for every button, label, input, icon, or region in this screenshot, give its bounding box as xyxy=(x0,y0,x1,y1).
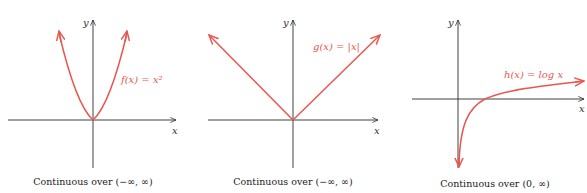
continuity-caption: Continuous over (0, ∞) xyxy=(440,178,550,189)
x-axis-label: x xyxy=(374,125,380,136)
panel-absolute-value-function: x y g(x) = |x| Continuous over (−∞, ∞) xyxy=(208,17,380,187)
abs-left-branch xyxy=(209,35,293,120)
log-curve xyxy=(459,81,583,165)
y-axis-label: y xyxy=(447,17,454,28)
function-label: h(x) = log x xyxy=(504,69,563,80)
curve-arrow-right xyxy=(575,81,584,82)
y-axis-label: y xyxy=(282,17,289,28)
x-axis-label: x xyxy=(172,125,178,136)
curve-arrow-right xyxy=(125,31,127,42)
panel-log-function: x y h(x) = log x Continuous over (0, ∞) xyxy=(412,17,585,189)
continuity-caption: Continuous over (−∞, ∞) xyxy=(33,176,152,187)
function-label: g(x) = |x| xyxy=(313,41,360,53)
x-axis-label: x xyxy=(579,103,585,114)
continuity-figure: x y f(x) = x² Continuous over (−∞, ∞) x … xyxy=(0,0,587,193)
y-axis-label: y xyxy=(82,17,89,28)
panel-square-function: x y f(x) = x² Continuous over (−∞, ∞) xyxy=(8,17,178,187)
curve-arrow-left xyxy=(59,31,61,42)
continuity-caption: Continuous over (−∞, ∞) xyxy=(233,176,352,187)
function-label: f(x) = x² xyxy=(120,74,163,85)
